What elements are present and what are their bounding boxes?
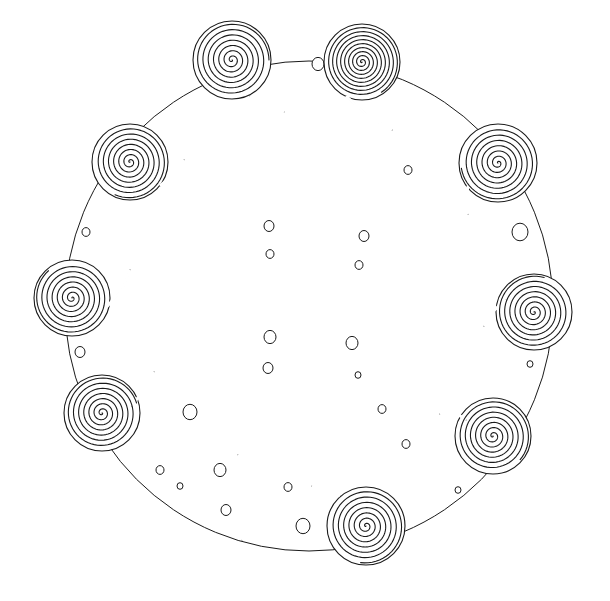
spiral-ornament-drawing [0, 0, 610, 601]
spiral-ornament [193, 21, 284, 112]
spiral-ornament [64, 372, 154, 451]
bead-fragment [527, 361, 533, 368]
bead-fragment [214, 463, 226, 476]
spiral-ornament [34, 260, 130, 336]
spiral-ornament [440, 398, 531, 474]
bead-fragment [359, 231, 369, 242]
bead-fragment [263, 363, 273, 374]
bead-fragment [82, 228, 90, 237]
spiral-ornament [484, 274, 572, 350]
bead-fragment [346, 336, 358, 349]
bead-fragment [312, 57, 324, 70]
bead-fragment [455, 487, 461, 494]
bead-fragment [156, 466, 164, 475]
bead-fragment [378, 405, 386, 414]
spiral-ornament [92, 124, 184, 200]
bead-fragment [355, 261, 363, 270]
bead-fragment [183, 404, 197, 419]
bead-fragment [296, 518, 310, 533]
spiral-ornament [459, 124, 537, 214]
rod-fragments [238, 455, 254, 540]
spiral-ornament [324, 24, 400, 130]
bead-fragment [402, 440, 410, 449]
drawing-canvas [0, 0, 610, 601]
bead-fragment [355, 372, 361, 379]
spiral-ornament [312, 486, 405, 565]
bead-fragment [266, 250, 274, 259]
bead-fragment [264, 330, 276, 343]
bead-fragment [75, 347, 85, 358]
rod-fragment [238, 455, 254, 540]
bead-fragment [404, 166, 412, 175]
bead-fragment [221, 505, 231, 516]
bead-fragment [284, 483, 292, 492]
bead-fragment [512, 223, 528, 241]
bead-fragment [177, 483, 183, 490]
spiral-ornaments [34, 21, 572, 565]
bead-fragment [264, 221, 274, 232]
